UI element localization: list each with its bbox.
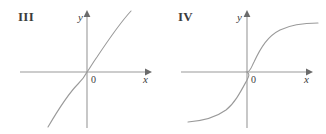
figure-canvas: III y x 0 IV y x 0 <box>0 0 326 134</box>
graph-panel-III: III y x 0 <box>0 0 163 134</box>
y-axis-label: y <box>78 12 83 23</box>
function-curve <box>48 11 131 127</box>
graph-panel-IV: IV y x 0 <box>163 0 326 134</box>
origin-label: 0 <box>91 75 96 85</box>
panel-roman-label: III <box>18 10 34 23</box>
origin-label: 0 <box>251 75 256 85</box>
x-axis-label: x <box>304 74 309 85</box>
x-axis-label: x <box>143 74 148 85</box>
y-axis-arrow-icon <box>244 10 251 17</box>
y-axis-arrow-icon <box>84 10 91 17</box>
panel-roman-label: IV <box>178 10 193 23</box>
y-axis-label: y <box>237 12 242 23</box>
